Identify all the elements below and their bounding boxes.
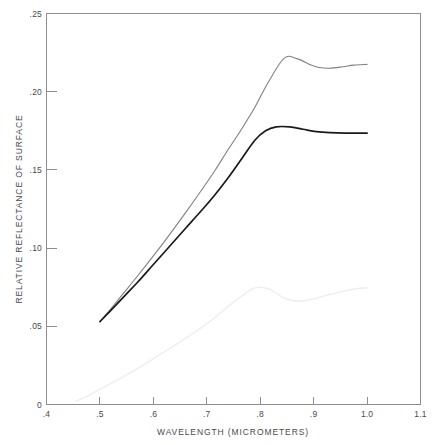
x-axis-title: WAVELENGTH (MICROMETERS) [157, 427, 309, 437]
x-tick-label-0.8: .8 [256, 409, 264, 419]
x-tick-label-0.6: .6 [150, 409, 158, 419]
x-tick-label-0.9: .9 [310, 409, 318, 419]
lower-curve-path [76, 287, 367, 401]
y-tick-label-0.10: .10 [30, 243, 42, 253]
y-tick-label-0.25: .25 [30, 9, 42, 19]
plot-canvas: .25 .20 .15 .10 .05 0 .4 .5 .6 .7 .8 .9 [0, 0, 438, 445]
data-series-group [76, 56, 367, 401]
x-tick-label-1.0: 1.0 [361, 409, 373, 419]
plot-frame [47, 14, 421, 405]
x-tick-label-0.7: .7 [203, 409, 211, 419]
y-tick-label-0.20: .20 [30, 87, 42, 97]
y-tick-label-0: 0 [37, 400, 42, 410]
y-axis-tick-labels: .25 .20 .15 .10 .05 0 [30, 9, 42, 410]
y-axis-title: RELATIVE REFLECTANCE OF SURFACE [14, 114, 24, 303]
x-tick-label-1.1: 1.1 [414, 409, 426, 419]
y-axis-ticks [47, 14, 57, 327]
x-axis-ticks [47, 397, 421, 405]
upper-curve-path [100, 56, 367, 321]
reflectance-spectrum-chart: .25 .20 .15 .10 .05 0 .4 .5 .6 .7 .8 .9 [0, 0, 438, 445]
middle-curve-path [100, 126, 367, 321]
y-tick-label-0.05: .05 [30, 321, 42, 331]
y-tick-label-0.15: .15 [30, 165, 42, 175]
frame-rect [47, 14, 421, 405]
x-tick-label-0.4: .4 [43, 409, 51, 419]
x-axis-tick-labels: .4 .5 .6 .7 .8 .9 1.0 1.1 [43, 409, 427, 419]
x-tick-label-0.5: .5 [96, 409, 104, 419]
